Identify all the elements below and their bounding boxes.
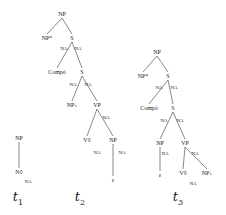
tree-edge: [62, 18, 72, 34]
na-annotation: NA: [160, 117, 167, 124]
tree-node: NP: [156, 140, 164, 147]
tree-edge: [47, 18, 62, 34]
na-annotation: NA: [161, 150, 168, 157]
tree-node: VP: [181, 140, 189, 147]
na-annotation: NA: [24, 178, 31, 185]
tree-caption: t3: [173, 189, 183, 207]
tree-node: NP↓: [67, 102, 78, 109]
na-annotation: NA: [170, 84, 177, 91]
tree-node: V◊: [179, 170, 186, 177]
tree-caption-index: 2: [80, 198, 85, 207]
tree-node: NP: [109, 137, 117, 144]
tree-node: ε: [159, 172, 162, 179]
tree-node: NP: [15, 135, 23, 142]
na-annotation: NA: [176, 117, 183, 124]
tree-edge: [143, 56, 157, 72]
tree-node: NP↓: [202, 170, 213, 177]
tree-node: NP*: [42, 35, 53, 42]
na-annotation: NA: [93, 149, 100, 156]
tree-node: S: [70, 35, 73, 42]
na-annotation: NA: [84, 81, 91, 88]
tree-edge: [87, 109, 97, 136]
tree-node: S: [166, 73, 169, 80]
tree-node: S: [171, 105, 174, 112]
na-annotation: NA: [118, 149, 125, 156]
na-annotation: NA: [191, 150, 198, 157]
tree-node: ε: [112, 177, 115, 184]
tree-caption-index: 1: [18, 198, 23, 207]
tree-caption-index: 3: [178, 198, 183, 207]
na-annotation: NA: [189, 180, 196, 187]
tree-node: NP*: [138, 73, 149, 80]
tree-node: N◊: [15, 169, 22, 176]
na-annotation: NA: [60, 45, 67, 52]
na-annotation: NA: [155, 84, 162, 91]
na-annotation: NA: [102, 114, 109, 121]
na-annotation: NA: [74, 45, 81, 52]
tree-caption: t2: [75, 189, 85, 207]
tree-node: NP: [58, 11, 66, 18]
tree-node: NP: [153, 49, 161, 56]
tree-node: S: [80, 69, 83, 76]
tree-node: Compó: [140, 105, 158, 112]
tree-edge: [157, 56, 168, 72]
tree-caption: t1: [13, 189, 23, 207]
tree-node: V◊: [83, 137, 90, 144]
na-annotation: NA: [69, 81, 76, 88]
tree-node: Compó: [48, 69, 66, 76]
tree-node: VP: [93, 102, 101, 109]
tree-edge: [183, 147, 185, 169]
